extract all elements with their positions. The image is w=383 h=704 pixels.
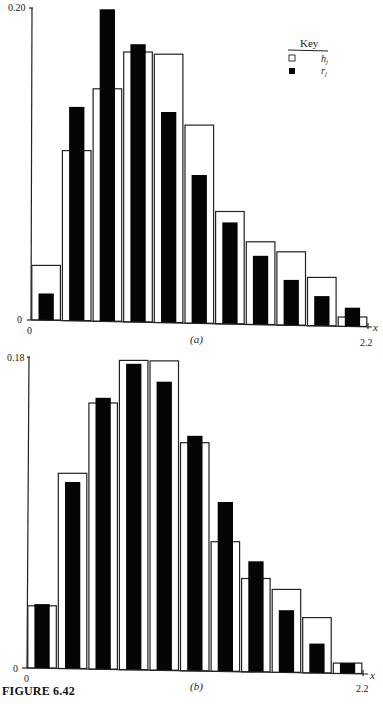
x-axis-label-a: x	[372, 321, 378, 333]
legend-filled-swatch-icon	[289, 68, 295, 74]
r-bar	[69, 107, 84, 321]
r-bar	[284, 280, 299, 325]
figure-caption: FIGURE 6.42	[2, 684, 75, 699]
chart-panel-a: 0.20 0 0 2.2 x (a) Key hj rj	[8, 2, 378, 348]
r-bar	[187, 436, 202, 671]
r-bar	[279, 610, 294, 672]
legend-underline	[288, 50, 328, 51]
y-tick-zero-b: 0	[13, 663, 18, 674]
r-bar	[192, 175, 207, 323]
r-bar	[314, 296, 329, 326]
r-bar	[100, 9, 115, 321]
r-bar	[161, 112, 176, 323]
r-bar	[96, 398, 111, 669]
legend-hollow-swatch-icon	[289, 55, 295, 61]
legend-title: Key	[300, 37, 319, 49]
x-tick-end-b: 2.2	[356, 683, 369, 694]
r-bar	[222, 222, 237, 323]
x-tick-zero-a: 0	[27, 325, 32, 336]
x-tick-end-a: 2.2	[360, 337, 373, 348]
r-bar	[253, 256, 268, 325]
r-bar	[130, 44, 145, 322]
r-bar	[345, 308, 360, 327]
figure-canvas: 0.20 0 0 2.2 x (a) Key hj rj 0.18 0 0 2.…	[0, 0, 383, 704]
y-tick-top-a: 0.20	[8, 2, 26, 13]
legend: Key hj rj	[288, 37, 328, 78]
r-bar	[218, 502, 233, 671]
r-bar	[126, 364, 141, 670]
panel-label-a: (a)	[190, 333, 203, 346]
x-axis-label-b: x	[369, 669, 375, 681]
x-tick-zero-b: 0	[24, 673, 29, 684]
legend-label-r: rj	[321, 65, 327, 78]
r-bar	[157, 382, 172, 671]
r-bar	[34, 604, 49, 668]
r-bar	[65, 482, 80, 669]
panel-label-b: (b)	[190, 680, 203, 693]
y-tick-zero-a: 0	[17, 314, 22, 325]
chart-panel-b: 0.18 0 0 2.2 x (b)	[7, 352, 375, 694]
r-bar	[39, 294, 54, 321]
y-tick-top-b: 0.18	[7, 352, 25, 363]
r-bar	[248, 561, 263, 672]
r-bar	[340, 663, 355, 673]
r-bar	[309, 644, 324, 673]
